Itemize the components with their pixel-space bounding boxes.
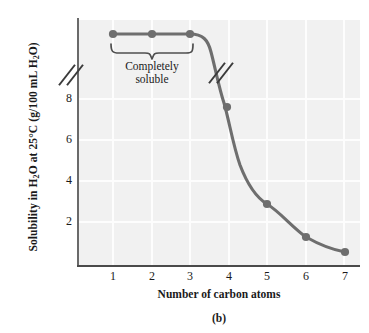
data-point-carbon-7 — [341, 248, 349, 256]
y-tick-label-6: 6 — [50, 132, 72, 147]
data-point-carbon-2 — [148, 30, 156, 38]
x-tick-label-3: 3 — [178, 269, 202, 284]
solubility-figure: Solubility in H2O at 25°C (g/100 mL H2O) — [0, 0, 369, 333]
y-tick-label-2: 2 — [50, 214, 72, 229]
data-point-carbon-1 — [109, 30, 117, 38]
x-tick-label-1: 1 — [101, 269, 125, 284]
data-point-carbon-3 — [186, 30, 194, 38]
x-tick-label-2: 2 — [140, 269, 164, 284]
completely-soluble-brace — [111, 44, 193, 59]
annotation-line-2: soluble — [103, 73, 201, 86]
x-tick-label-7: 7 — [333, 269, 357, 284]
y-tick-label-8: 8 — [50, 91, 72, 106]
figure-caption: (b) — [78, 312, 360, 324]
data-point-carbon-6 — [302, 233, 310, 241]
annotation-line-1: Completely — [103, 60, 201, 73]
data-point-carbon-5 — [263, 200, 271, 208]
y-axis-tick-labels: 8 6 4 2 — [48, 0, 72, 333]
x-tick-label-5: 5 — [255, 269, 279, 284]
data-point-carbon-4 — [223, 103, 231, 111]
completely-soluble-annotation: Completely soluble — [103, 60, 201, 86]
y-tick-label-4: 4 — [50, 173, 72, 188]
x-tick-label-4: 4 — [217, 269, 241, 284]
x-tick-label-6: 6 — [294, 269, 318, 284]
x-axis-title: Number of carbon atoms — [78, 288, 360, 300]
